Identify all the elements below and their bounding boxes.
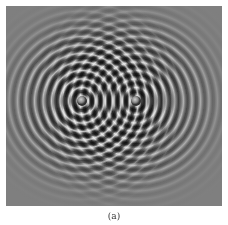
figure-caption: (a) [0, 211, 228, 221]
right-wave-source-rings [16, 6, 222, 206]
figure: (a) [0, 0, 228, 225]
interference-pattern-image [6, 6, 222, 206]
right-source-center [131, 96, 141, 106]
left-source-center [77, 96, 87, 106]
